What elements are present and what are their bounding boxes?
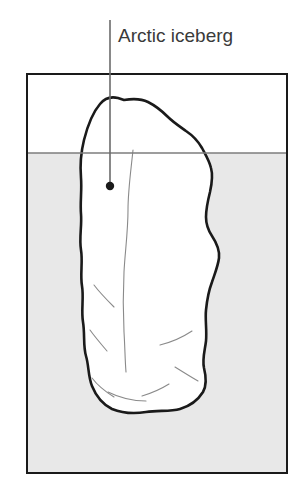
iceberg-diagram: Arctic iceberg [0,0,299,491]
callout-label: Arctic iceberg [118,25,233,46]
callout-marker-dot [106,182,114,190]
diagram-canvas: Arctic iceberg [0,0,299,491]
iceberg-body [80,97,219,413]
